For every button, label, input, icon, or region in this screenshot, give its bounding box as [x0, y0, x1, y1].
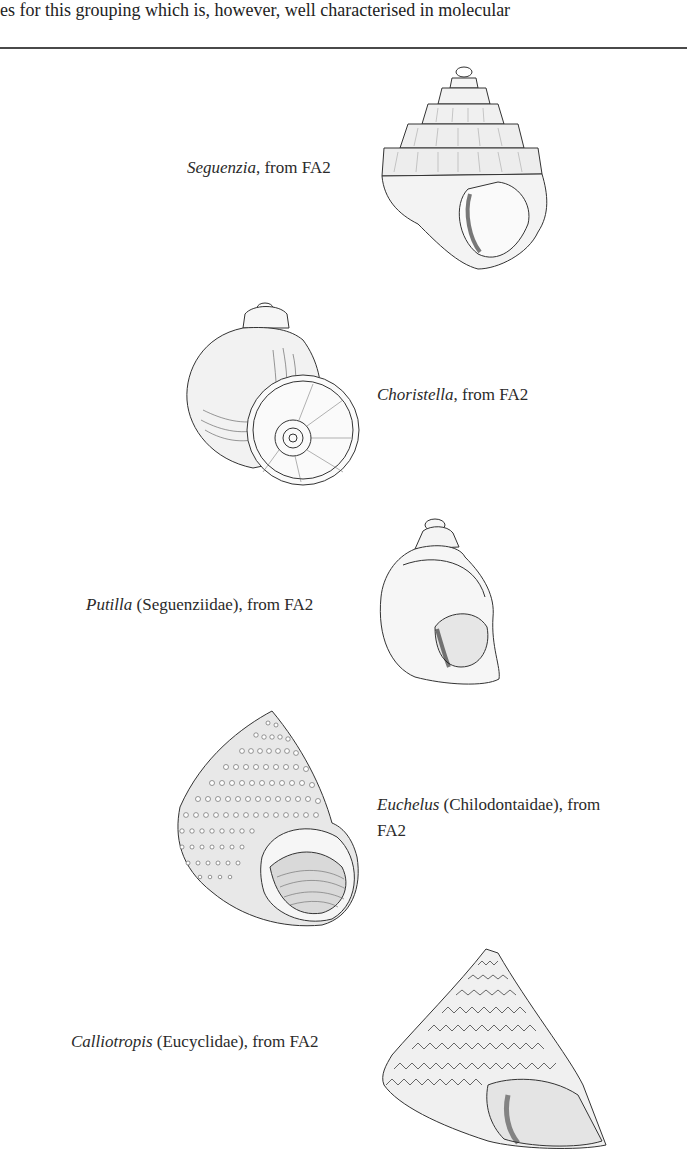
caption-text: (Chilodontaidae), from [439, 795, 600, 814]
caption-text: (Eucyclidae), from FA2 [153, 1032, 319, 1051]
caption-text: , from FA2 [454, 385, 529, 404]
caption-genus: Putilla [86, 595, 132, 614]
caption-line-2: FA2 [377, 818, 600, 844]
euchelus-shell-illustration [172, 707, 362, 932]
caption-euchelus: Euchelus (Chilodontaidae), from FA2 [377, 792, 600, 844]
caption-genus: Calliotropis [71, 1032, 153, 1051]
caption-seguenzia: Seguenzia, from FA2 [187, 155, 331, 181]
calliotropis-shell-illustration [378, 945, 608, 1151]
caption-genus: Seguenzia [187, 158, 256, 177]
caption-choristella: Choristella, from FA2 [377, 382, 528, 408]
running-text-fragment: es for this grouping which is, however, … [0, 0, 510, 20]
caption-genus: Choristella [377, 385, 454, 404]
caption-putilla: Putilla (Seguenziidae), from FA2 [86, 592, 313, 618]
caption-line-1: Euchelus (Chilodontaidae), from [377, 792, 600, 818]
seguenzia-shell-illustration [378, 64, 553, 274]
horizontal-rule [0, 47, 687, 49]
choristella-shell-illustration [183, 300, 363, 490]
caption-text: , from FA2 [256, 158, 331, 177]
caption-genus: Euchelus [377, 795, 439, 814]
putilla-shell-illustration [375, 517, 510, 687]
caption-calliotropis: Calliotropis (Eucyclidae), from FA2 [71, 1029, 318, 1055]
caption-text: (Seguenziidae), from FA2 [132, 595, 313, 614]
